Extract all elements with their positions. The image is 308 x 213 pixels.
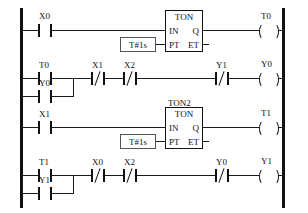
rung4-coil-y1-label: Y1 [261, 157, 272, 166]
rung2-contact-x1-bar-left [91, 72, 93, 85]
rung1-contact-x0-bar-left [38, 24, 40, 37]
rung2-branch-wire-left [22, 96, 38, 97]
rung4-wire-coil-to-rail [278, 175, 284, 176]
rung2-wire-coil-to-rail [278, 78, 284, 79]
rung3-wire-q-to-coil [203, 127, 259, 128]
rung3-ton-et-label: ET [188, 138, 199, 147]
rung1-wire-to-block [52, 30, 165, 31]
rung2-contact-x1-label: X1 [92, 61, 103, 70]
rung4-contact-y0-label: Y0 [216, 158, 227, 167]
rung2-wire-x2-to-y1 [137, 78, 215, 79]
rung1-ton-pt-label: PT [169, 41, 180, 50]
rung2-branch-y0-bar-left [38, 90, 40, 103]
rung4-branch-wire-right [52, 193, 74, 194]
rung4-coil-y1-left [259, 168, 269, 185]
rung3-coil-t1-left [259, 120, 269, 137]
rung2-contact-y1-slash [218, 71, 224, 85]
rung3-wire-coil-to-rail [278, 127, 284, 128]
rung3-wire-left [22, 127, 38, 128]
rung3-contact-x1-label: X1 [39, 110, 50, 119]
rung2-wire-x1-to-x2 [105, 78, 123, 79]
rung4-wire-x0-to-x2 [105, 175, 123, 176]
rung4-contact-t1-label: T1 [39, 158, 49, 167]
rung3-wire-to-block [52, 127, 165, 128]
rung2-branch-wire-right [52, 96, 74, 97]
rung4-branch-wire-left [22, 193, 38, 194]
rung4-contact-y0-bar-left [215, 169, 217, 182]
rung2-branch-y0-label: Y0 [39, 79, 50, 88]
rung2-contact-t0-label: T0 [39, 61, 49, 70]
rung3-wire-literal-to-pt [156, 141, 165, 142]
rung1-wire-q-to-coil [203, 30, 259, 31]
rung4-contact-x0-bar-left [91, 169, 93, 182]
rung4-contact-x2-slash [126, 168, 132, 182]
rung4-wire-x2-to-y0 [137, 175, 215, 176]
rung4-wire-left [22, 175, 38, 176]
rung4-wire-node-to-x0 [73, 175, 91, 176]
rung1-ton-block-title: TON [166, 13, 202, 22]
rung4-wire-y0-to-coil [229, 175, 259, 176]
rung1-ton-block[interactable]: TON IN Q PT ET [165, 10, 203, 52]
rung4-branch-y1-label: Y1 [39, 176, 50, 185]
rung2-coil-y0-right [269, 71, 279, 88]
rung1-wire-et-stub [203, 44, 209, 45]
rung2-contact-y1-bar-left [215, 72, 217, 85]
ladder-diagram-canvas: X0 TON IN Q PT ET T#1s T0 T0 Y0 X1 X2 [0, 0, 308, 213]
rung3-coil-t1-right [269, 120, 279, 137]
rung1-coil-t0-label: T0 [261, 12, 271, 21]
rung4-contact-x0-label: X0 [92, 158, 103, 167]
rung2-contact-y1-label: Y1 [216, 61, 227, 70]
rung1-wire-coil-to-rail [278, 30, 284, 31]
rung2-wire-t0-to-node [52, 78, 74, 79]
rung1-wire-literal-to-pt [156, 44, 165, 45]
rung3-ton-block-title: TON [166, 110, 202, 119]
rung2-coil-y0-label: Y0 [261, 60, 272, 69]
rung3-ton-in-label: IN [169, 124, 179, 133]
rung4-coil-y1-right [269, 168, 279, 185]
rung1-ton-q-label: Q [193, 27, 200, 36]
rung1-coil-t0-left [259, 23, 269, 40]
rung2-coil-y0-left [259, 71, 269, 88]
rung2-contact-x1-slash [94, 71, 100, 85]
rung1-preset-literal[interactable]: T#1s [120, 37, 156, 52]
rung1-contact-x0-label: X0 [39, 12, 50, 21]
rung4-branch-y1-bar-left [38, 187, 40, 200]
rung4-branch-vwire-right [73, 175, 74, 194]
rung4-branch-vwire-left [22, 175, 23, 194]
rung3-ton-block[interactable]: TON IN Q PT ET [165, 107, 203, 149]
rung4-contact-y0-slash [218, 168, 224, 182]
rung4-wire-t1-to-node [52, 175, 74, 176]
rung1-ton-in-label: IN [169, 27, 179, 36]
rung1-coil-t0-right [269, 23, 279, 40]
rung3-ton-pt-label: PT [169, 138, 180, 147]
rung2-wire-y1-to-coil [229, 78, 259, 79]
rung1-ton-et-label: ET [188, 41, 199, 50]
rung1-wire-left [22, 30, 38, 31]
rung2-branch-vwire-left [22, 78, 23, 97]
rung3-coil-t1-label: T1 [261, 109, 271, 118]
rung2-contact-x2-slash [126, 71, 132, 85]
rung3-preset-literal[interactable]: T#1s [120, 134, 156, 149]
rung2-wire-node-to-x1 [73, 78, 91, 79]
rung2-contact-x2-label: X2 [124, 61, 135, 70]
rung3-wire-et-stub [203, 141, 209, 142]
rung2-contact-x2-bar-left [123, 72, 125, 85]
rung4-contact-x2-label: X2 [124, 158, 135, 167]
power-rail-right [282, 8, 285, 208]
rung4-contact-x0-slash [94, 168, 100, 182]
rung3-ton-q-label: Q [193, 124, 200, 133]
rung3-contact-x1-bar-left [38, 121, 40, 134]
rung4-contact-x2-bar-left [123, 169, 125, 182]
rung2-wire-left [22, 78, 38, 79]
rung2-branch-vwire-right [73, 78, 74, 97]
